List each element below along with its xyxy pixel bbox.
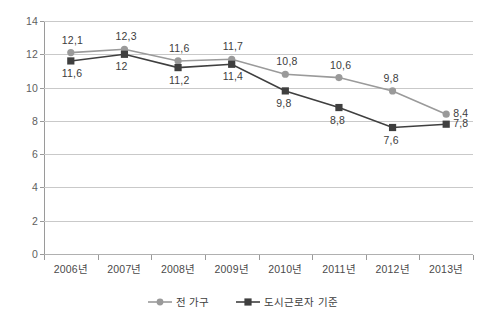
gridline bbox=[44, 187, 473, 188]
x-axis-tick-labels: 2006년2007년2008년2009년2010년2011년2012년2013년 bbox=[44, 261, 473, 279]
data-point-label: 7,8 bbox=[453, 117, 468, 129]
data-point-label: 9,8 bbox=[276, 97, 291, 109]
data-point-label: 11,4 bbox=[223, 70, 243, 82]
gridline bbox=[44, 154, 473, 155]
legend-item-series-2[interactable]: 도시근로자 기준 bbox=[236, 294, 339, 309]
x-axis-tick-mark bbox=[312, 255, 313, 260]
data-point-label: 7,6 bbox=[384, 134, 399, 146]
gridline bbox=[44, 21, 473, 22]
x-axis-tick-mark bbox=[151, 255, 152, 260]
data-point-label: 12,1 bbox=[62, 34, 83, 46]
legend-marker-square-icon bbox=[236, 296, 260, 308]
legend-label-series-2: 도시근로자 기준 bbox=[264, 294, 339, 309]
x-axis-tick-mark bbox=[366, 255, 367, 260]
x-axis-tick-label: 2007년 bbox=[107, 261, 141, 276]
x-axis-tick-mark bbox=[205, 255, 206, 260]
gridline bbox=[44, 121, 473, 122]
x-axis-tick-label: 2009년 bbox=[215, 261, 249, 276]
legend-item-series-1[interactable]: 전 가구 bbox=[148, 294, 210, 309]
x-axis-tick-mark bbox=[419, 255, 420, 260]
x-axis-tick-label: 2006년 bbox=[54, 261, 88, 276]
x-axis-tick-mark bbox=[98, 255, 99, 260]
gridline bbox=[44, 88, 473, 89]
data-point-label: 12 bbox=[115, 60, 127, 72]
data-point-label: 8,8 bbox=[330, 114, 345, 126]
x-axis-tick-label: 2011년 bbox=[322, 261, 356, 276]
x-axis-tick-mark bbox=[44, 255, 45, 260]
legend-label-series-1: 전 가구 bbox=[176, 294, 210, 309]
data-point-label: 11,7 bbox=[223, 40, 243, 52]
data-point-label: 11,6 bbox=[62, 67, 82, 79]
gridline bbox=[44, 221, 473, 222]
x-axis-tick-mark bbox=[473, 255, 474, 260]
legend-marker-circle-icon bbox=[148, 296, 172, 308]
x-axis-tick-mark bbox=[259, 255, 260, 260]
chart-legend: 전 가구 도시근로자 기준 bbox=[0, 294, 486, 309]
x-axis-tick-label: 2012년 bbox=[375, 261, 409, 276]
line-chart: 14121086420 2006년2007년2008년2009년2010년201… bbox=[0, 0, 486, 328]
x-axis-tick-label: 2008년 bbox=[161, 261, 195, 276]
data-point-label: 9,8 bbox=[384, 72, 399, 84]
data-point-label: 11,6 bbox=[169, 42, 189, 54]
y-axis-tick-marks bbox=[0, 21, 46, 254]
data-point-label: 11,2 bbox=[169, 74, 189, 86]
data-point-label: 12,3 bbox=[115, 30, 136, 42]
gridline bbox=[44, 54, 473, 55]
data-point-label: 10,6 bbox=[330, 59, 351, 71]
x-axis-tick-label: 2013년 bbox=[429, 261, 463, 276]
plot-area bbox=[44, 21, 473, 254]
x-axis-tick-marks bbox=[44, 255, 473, 260]
data-point-label: 10,8 bbox=[276, 55, 297, 67]
x-axis-tick-label: 2010년 bbox=[268, 261, 302, 276]
